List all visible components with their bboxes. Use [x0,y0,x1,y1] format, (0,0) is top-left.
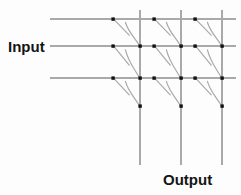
switch-input-node [152,44,155,47]
switch-input-node [193,44,196,47]
switch-output-node [220,104,223,107]
switch-output-node [138,104,141,107]
switch-output-node [220,76,223,79]
crosspoint-switch-r1-c3[interactable] [193,17,223,47]
switch-output-node [138,44,141,47]
crosspoint-switch-group [111,17,223,107]
crosspoint-switch-r3-c3[interactable] [193,76,223,107]
crosspoint-switch-r2-c1[interactable] [111,44,141,79]
switch-output-node [220,44,223,47]
crosspoint-switch-r2-c3[interactable] [193,44,223,79]
input-axis-label: Input [8,39,45,54]
switch-output-node [179,76,182,79]
crosspoint-switch-r1-c1[interactable] [111,17,141,47]
crosspoint-switch-r3-c1[interactable] [111,76,141,107]
crossbar-switch-matrix [0,0,241,195]
crossbar-diagram-canvas: Input Output [0,0,241,195]
input-bus-group [50,19,236,78]
switch-input-node [193,76,196,79]
switch-input-node [152,76,155,79]
crosspoint-switch-r3-c2[interactable] [152,76,182,107]
switch-input-node [111,44,114,47]
crosspoint-switch-r1-c2[interactable] [152,17,182,47]
switch-output-node [138,76,141,79]
switch-input-node [193,17,196,20]
switch-input-node [152,17,155,20]
switch-input-node [111,17,114,20]
switch-input-node [111,76,114,79]
switch-output-node [179,44,182,47]
crosspoint-switch-r2-c2[interactable] [152,44,182,79]
switch-output-node [179,104,182,107]
output-axis-label: Output [163,172,212,187]
